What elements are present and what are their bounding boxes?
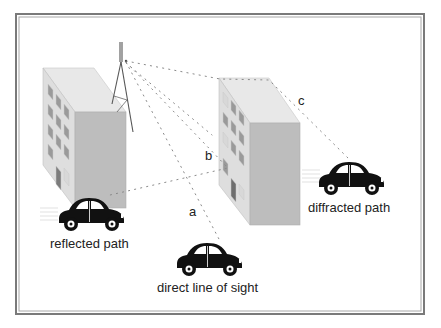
label-reflected-path: reflected path	[50, 236, 129, 251]
label-direct-line-of-sight: direct line of sight	[157, 280, 259, 295]
label-diffracted-path: diffracted path	[308, 200, 390, 215]
path-letter-c: c	[298, 93, 305, 108]
path-letter-a: a	[189, 204, 197, 219]
multipath-propagation-diagram: a b c reflected path diffracted path dir…	[0, 0, 441, 328]
path-letter-b: b	[205, 148, 212, 163]
